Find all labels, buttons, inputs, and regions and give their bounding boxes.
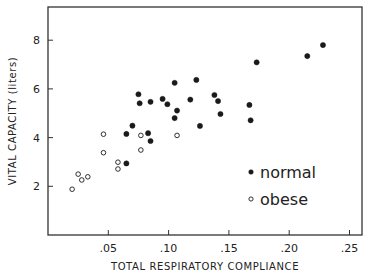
obese-data-point (139, 148, 144, 153)
scatter-chart: .05.10.15.20.25 2468 normalobese TOTAL R… (0, 0, 370, 277)
x-axis-title: TOTAL RESPIRATORY COMPLIANCE (110, 261, 299, 272)
obese-data-point (85, 175, 90, 180)
x-axis-ticks: .05.10.15.20.25 (100, 230, 359, 255)
x-tick-label: .10 (160, 242, 178, 255)
x-tick-label: .05 (100, 242, 118, 255)
normal-data-point (212, 92, 217, 97)
normal-data-point (124, 161, 129, 166)
normal-data-point (248, 118, 253, 123)
legend: normalobese (249, 163, 316, 209)
plot-border (48, 7, 362, 235)
normal-data-point (160, 96, 165, 101)
normal-data-point (188, 97, 193, 102)
normal-data-point (172, 116, 177, 121)
normal-data-point (148, 138, 153, 143)
normal-data-point (137, 101, 142, 106)
normal-data-point (305, 53, 310, 58)
obese-data-point (79, 178, 84, 183)
x-tick-label: .20 (280, 242, 298, 255)
y-axis-title: VITAL CAPACITY (liters) (7, 57, 18, 185)
normal-data-point (136, 92, 141, 97)
x-tick-label: .15 (220, 242, 238, 255)
x-tick-label: .25 (341, 242, 359, 255)
filled-circle-icon (249, 170, 254, 175)
normal-data-point (130, 123, 135, 128)
obese-data-point (101, 132, 106, 137)
y-axis-ticks: 2468 (33, 34, 53, 193)
y-tick-label: 2 (33, 180, 40, 193)
normal-data-point (174, 108, 179, 113)
obese-data-point (101, 150, 106, 155)
normal-data-point (172, 80, 177, 85)
normal-data-point (254, 60, 259, 65)
normal-data-point (124, 131, 129, 136)
open-circle-icon (249, 197, 253, 201)
y-tick-label: 4 (33, 132, 40, 145)
normal-data-point (320, 42, 325, 47)
obese-data-point (139, 133, 144, 138)
y-tick-label: 8 (33, 34, 40, 47)
y-tick-label: 6 (33, 83, 40, 96)
obese-data-point (116, 160, 121, 165)
normal-data-point (194, 77, 199, 82)
legend-label-normal: normal (260, 163, 316, 182)
plot-frame (48, 7, 362, 235)
obese-data-point (70, 187, 75, 192)
normal-data-point (247, 102, 252, 107)
normal-data-point (145, 131, 150, 136)
normal-data-point (148, 99, 153, 104)
normal-data-point (165, 102, 170, 107)
obese-data-point (116, 167, 121, 172)
legend-label-obese: obese (260, 190, 308, 209)
normal-data-point (197, 123, 202, 128)
normal-data-point (215, 98, 220, 103)
obese-data-point (76, 172, 81, 177)
normal-data-point (218, 111, 223, 116)
obese-data-point (175, 133, 180, 138)
